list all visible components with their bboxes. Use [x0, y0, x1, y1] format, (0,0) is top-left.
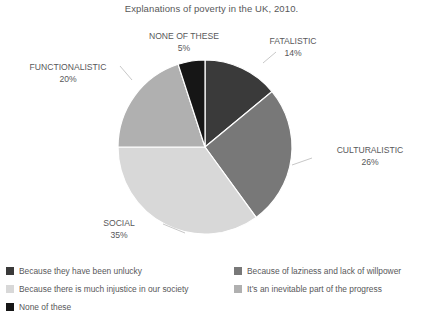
legend-item[interactable]: Because they have been unlucky [6, 262, 234, 280]
slice-label-culturalistic: CULTURALISTIC 26% [318, 145, 422, 168]
legend-swatch-icon [6, 285, 14, 293]
slice-label-social: SOCIAL 35% [77, 218, 161, 241]
pie-plot-area: FATALISTIC 14% CULTURALISTIC 26% SOCIAL … [0, 0, 423, 262]
chart-legend: Because they have been unlucky Because t… [6, 262, 423, 320]
legend-label: Because there is much injustice in our s… [19, 284, 188, 294]
slice-pct-social: 35% [77, 230, 161, 242]
legend-item[interactable]: Because of laziness and lack of willpowe… [234, 262, 423, 280]
slice-pct-fatalistic: 14% [245, 48, 341, 60]
slice-pct-none-of-these: 5% [132, 43, 236, 55]
slice-pct-functionalistic: 20% [16, 74, 120, 86]
pie-slice-group [118, 60, 292, 234]
legend-label: It’s an inevitable part of the progress [247, 284, 382, 294]
legend-label: Because they have been unlucky [19, 266, 142, 276]
legend-column-right: Because of laziness and lack of willpowe… [234, 262, 423, 298]
slice-name-none-of-these: NONE OF THESE [149, 31, 219, 41]
legend-item[interactable]: None of these [6, 298, 234, 316]
legend-label: Because of laziness and lack of willpowe… [247, 266, 401, 276]
legend-swatch-icon [6, 303, 14, 311]
leader-line-culturalistic [292, 158, 312, 165]
slice-name-social: SOCIAL [103, 218, 135, 228]
slice-name-culturalistic: CULTURALISTIC [337, 145, 404, 155]
slice-label-functionalistic: FUNCTIONALISTIC 20% [16, 62, 120, 85]
legend-swatch-icon [234, 285, 242, 293]
pie-chart-figure: Explanations of poverty in the UK, 2010.… [0, 0, 423, 323]
legend-item[interactable]: Because there is much injustice in our s… [6, 280, 234, 298]
legend-label: None of these [19, 302, 71, 312]
slice-name-functionalistic: FUNCTIONALISTIC [30, 62, 107, 72]
leader-line-functionalistic [120, 66, 132, 80]
legend-swatch-icon [6, 267, 14, 275]
slice-label-none-of-these: NONE OF THESE 5% [132, 31, 236, 54]
legend-column-left: Because they have been unlucky Because t… [6, 262, 234, 316]
legend-swatch-icon [234, 267, 242, 275]
slice-label-fatalistic: FATALISTIC 14% [245, 36, 341, 59]
legend-item[interactable]: It’s an inevitable part of the progress [234, 280, 423, 298]
slice-pct-culturalistic: 26% [318, 157, 422, 169]
slice-name-fatalistic: FATALISTIC [270, 36, 317, 46]
